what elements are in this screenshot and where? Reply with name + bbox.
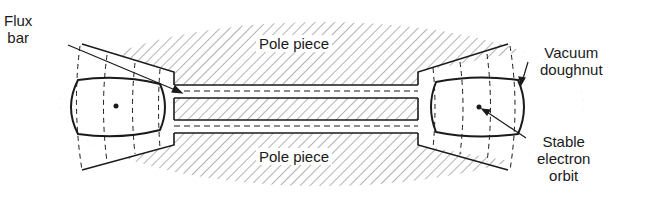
pole-piece-top-label: Pole piece <box>256 35 332 52</box>
electron-orbit-dot-right <box>477 105 482 110</box>
label-line: doughnut <box>540 61 603 78</box>
pole-piece-bottom-label: Pole piece <box>256 148 332 165</box>
label-line: orbit <box>537 167 590 184</box>
label-line: Vacuum <box>540 44 603 61</box>
flux-bar-label: Flux bar <box>4 12 32 46</box>
label-line: Stable <box>537 133 590 150</box>
label-line: bar <box>4 29 32 46</box>
label-line: Flux <box>4 12 32 29</box>
vacuum-doughnut-label: Vacuum doughnut <box>540 44 603 78</box>
electron-orbit-dot-left <box>114 104 119 109</box>
stable-electron-orbit-label: Stable electron orbit <box>537 133 590 184</box>
label-line: electron <box>537 150 590 167</box>
